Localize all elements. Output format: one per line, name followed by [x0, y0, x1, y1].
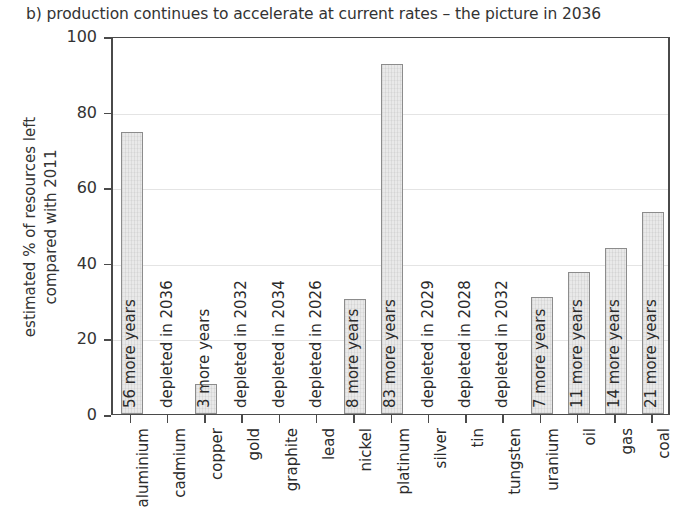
- x-tick-mark: [391, 415, 393, 423]
- y-tick-label: 100: [37, 29, 97, 45]
- x-tick-mark: [279, 415, 281, 423]
- x-tick-mark: [241, 415, 243, 423]
- x-tick-label-silver: silver: [433, 428, 448, 468]
- bar-annotation: depleted in 2032: [234, 280, 249, 408]
- bar-chart-figure: b) production continues to accelerate at…: [0, 0, 683, 522]
- y-tick-mark: [104, 37, 111, 39]
- bar-slot: 11 more years: [560, 38, 597, 414]
- x-tick-label-graphite: graphite: [284, 428, 299, 491]
- x-tick-mark: [353, 415, 355, 423]
- x-tick-mark: [614, 415, 616, 423]
- x-tick-label-tungsten: tungsten: [508, 428, 523, 495]
- bar-annotation: depleted in 2028: [458, 280, 473, 408]
- bar-annotation: 14 more years: [607, 299, 622, 408]
- y-tick-mark: [104, 264, 111, 266]
- y-axis-title-line-2: compared with 2011: [41, 82, 62, 372]
- bar-annotation: depleted in 2036: [159, 280, 174, 408]
- chart-title: b) production continues to accelerate at…: [26, 4, 676, 24]
- bar-slot: 8 more years: [337, 38, 374, 414]
- y-tick-mark: [104, 415, 111, 417]
- x-tick-label-lead: lead: [321, 428, 336, 460]
- y-tick-mark: [104, 113, 111, 115]
- bar-annotation: 83 more years: [383, 299, 398, 408]
- x-tick-mark: [465, 415, 467, 423]
- x-tick-label-platinum: platinum: [396, 428, 411, 495]
- x-tick-label-gas: gas: [620, 428, 635, 455]
- bar-slot: depleted in 2032: [225, 38, 262, 414]
- x-tick-mark: [130, 415, 132, 423]
- x-tick-label-gold: gold: [247, 428, 262, 460]
- x-tick-mark: [502, 415, 504, 423]
- plot-area: 56 more yearsdepleted in 20363 more year…: [111, 37, 670, 415]
- bar-annotation: depleted in 2032: [495, 280, 510, 408]
- bar-annotation: 7 more years: [532, 309, 547, 408]
- x-tick-label-nickel: nickel: [359, 428, 374, 471]
- y-tick-mark: [104, 339, 111, 341]
- y-tick-label: 40: [37, 256, 97, 272]
- bar-slot: depleted in 2029: [411, 38, 448, 414]
- bar-annotation: 56 more years: [122, 299, 137, 408]
- bar-slot: depleted in 2028: [448, 38, 485, 414]
- y-tick-label: 60: [37, 180, 97, 196]
- x-tick-label-aluminium: aluminium: [135, 428, 150, 507]
- bar-annotation: 11 more years: [569, 299, 584, 408]
- x-tick-mark: [651, 415, 653, 423]
- bar-slot: 7 more years: [523, 38, 560, 414]
- bar-annotation: 8 more years: [346, 309, 361, 408]
- x-tick-label-copper: copper: [210, 428, 225, 480]
- x-tick-mark: [204, 415, 206, 423]
- bar-slot: 83 more years: [374, 38, 411, 414]
- x-tick-label-coal: coal: [657, 428, 672, 459]
- x-tick-label-oil: oil: [582, 428, 597, 446]
- bar-annotation: depleted in 2026: [308, 280, 323, 408]
- y-tick-label: 20: [37, 331, 97, 347]
- bar-annotation: depleted in 2029: [420, 280, 435, 408]
- bar-annotation: depleted in 2034: [271, 280, 286, 408]
- bar-slot: depleted in 2036: [150, 38, 187, 414]
- y-axis-title-line-1: estimated % of resources left: [20, 82, 41, 372]
- bar-slot: 56 more years: [113, 38, 150, 414]
- bar-annotation: 21 more years: [644, 299, 659, 408]
- y-axis-title: estimated % of resources left compared w…: [20, 82, 64, 372]
- x-tick-label-cadmium: cadmium: [172, 428, 187, 498]
- bar-slot: depleted in 2034: [262, 38, 299, 414]
- x-tick-mark: [167, 415, 169, 423]
- bar-annotation: 3 more years: [197, 309, 212, 408]
- y-tick-mark: [104, 188, 111, 190]
- x-tick-mark: [540, 415, 542, 423]
- bar-slot: 21 more years: [635, 38, 672, 414]
- bar-slot: 3 more years: [188, 38, 225, 414]
- y-tick-label: 0: [37, 407, 97, 423]
- x-tick-label-tin: tin: [471, 428, 486, 448]
- x-tick-label-uranium: uranium: [545, 428, 560, 491]
- y-tick-label: 80: [37, 105, 97, 121]
- x-tick-mark: [428, 415, 430, 423]
- bar-slot: 14 more years: [597, 38, 634, 414]
- bar-slot: depleted in 2026: [299, 38, 336, 414]
- bar-slot: depleted in 2032: [486, 38, 523, 414]
- x-tick-mark: [316, 415, 318, 423]
- x-tick-mark: [577, 415, 579, 423]
